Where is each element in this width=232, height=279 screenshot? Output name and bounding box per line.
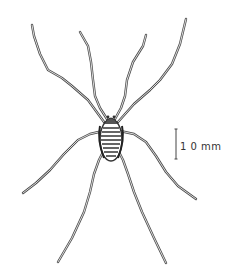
scale-bar-label: 1 0 mm (180, 141, 222, 152)
leg-front-right-outer (118, 19, 186, 122)
leg-rear-right (116, 146, 166, 263)
harvestman-drawing (0, 0, 232, 279)
scale-bar (175, 129, 178, 159)
leg-rear-left (58, 146, 106, 262)
illustration-canvas: 1 0 mm (0, 0, 232, 279)
harvestman-body (99, 116, 123, 161)
